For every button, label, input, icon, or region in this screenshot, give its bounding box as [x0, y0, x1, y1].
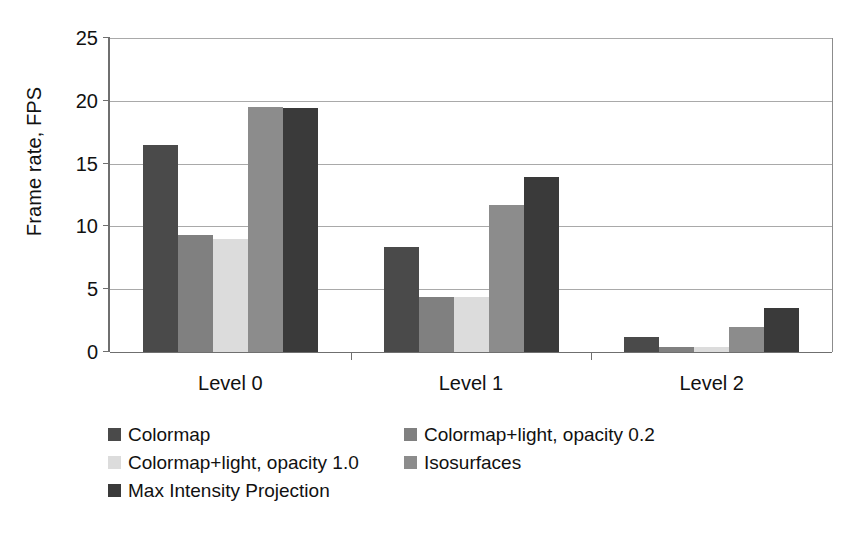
y-tick-label: 25: [76, 27, 98, 50]
chart-legend: ColormapColormap+light, opacity 0.2Color…: [108, 420, 728, 504]
legend-label: Colormap+light, opacity 1.0: [128, 453, 359, 472]
x-axis-tick: [591, 352, 592, 360]
bar: [694, 347, 729, 352]
legend-swatch-icon: [108, 456, 121, 469]
bar: [454, 297, 489, 352]
bar: [283, 108, 318, 352]
legend-item[interactable]: Colormap: [108, 420, 404, 448]
bar: [384, 247, 419, 353]
bar: [178, 235, 213, 352]
bar: [213, 239, 248, 352]
y-tick-label: 10: [76, 215, 98, 238]
bar: [419, 297, 454, 352]
legend-label: Isosurfaces: [424, 453, 521, 472]
legend-label: Colormap: [128, 425, 210, 444]
legend-item[interactable]: Colormap+light, opacity 1.0: [108, 448, 404, 476]
bar: [524, 177, 559, 352]
bar: [489, 205, 524, 352]
y-tick-label: 5: [87, 278, 98, 301]
x-tick-label: Level 0: [110, 372, 351, 395]
y-tick-label: 20: [76, 89, 98, 112]
y-tick-label: 15: [76, 152, 98, 175]
plot-area: 0510152025 Level 0Level 1Level 2: [108, 38, 833, 352]
legend-item[interactable]: Max Intensity Projection: [108, 476, 728, 504]
bar-groups: Level 0Level 1Level 2: [110, 38, 832, 352]
y-tick-mark: [103, 351, 110, 352]
legend-swatch-icon: [108, 484, 121, 497]
bars-container: [110, 38, 351, 352]
gridline: [110, 352, 832, 353]
bar: [729, 327, 764, 352]
x-tick-label: Level 1: [351, 372, 592, 395]
y-tick-mark: [103, 37, 110, 38]
y-tick-mark: [103, 288, 110, 289]
bar-group: Level 0: [110, 38, 351, 352]
bar-chart: Frame rate, FPS 0510152025 Level 0Level …: [0, 0, 856, 536]
bars-container: [591, 38, 832, 352]
y-tick-mark: [103, 225, 110, 226]
legend-swatch-icon: [108, 428, 121, 441]
bar: [248, 107, 283, 352]
legend-swatch-icon: [404, 456, 417, 469]
bar-group: Level 2: [591, 38, 832, 352]
bar: [624, 337, 659, 352]
bar: [764, 308, 799, 352]
bar: [143, 145, 178, 352]
y-tick-label: 0: [87, 341, 98, 364]
y-tick-mark: [103, 163, 110, 164]
legend-item[interactable]: Isosurfaces: [404, 448, 724, 476]
bars-container: [351, 38, 592, 352]
bar-group: Level 1: [351, 38, 592, 352]
x-axis-tick: [351, 352, 352, 360]
legend-label: Max Intensity Projection: [128, 481, 330, 500]
y-axis-title: Frame rate, FPS: [23, 62, 46, 262]
y-tick-mark: [103, 100, 110, 101]
legend-swatch-icon: [404, 428, 417, 441]
legend-item[interactable]: Colormap+light, opacity 0.2: [404, 420, 724, 448]
bar: [659, 347, 694, 352]
legend-label: Colormap+light, opacity 0.2: [424, 425, 655, 444]
x-tick-label: Level 2: [591, 372, 832, 395]
